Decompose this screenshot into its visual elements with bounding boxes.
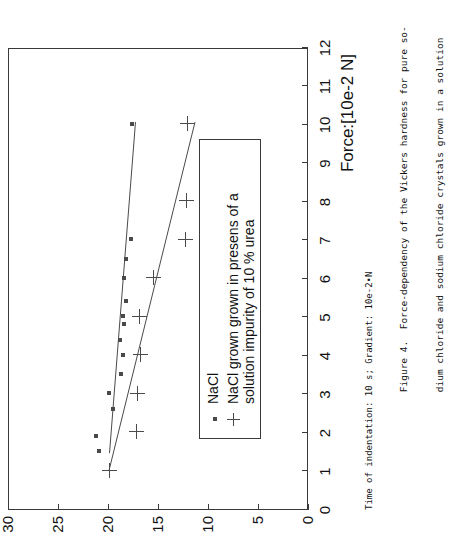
x-tick-label: 11 [316, 72, 333, 102]
legend-label-urea-line1: NaCl grown grown in presens of a [225, 193, 241, 404]
data-point-dot [124, 257, 128, 261]
legend-label-nacl-line1: NaCl [205, 373, 221, 404]
x-tick-label: 7 [316, 226, 333, 256]
y-tick [208, 504, 209, 510]
x-tick-label: 4 [316, 341, 333, 371]
legend-label-nacl-urea: NaCl grown grown in presens of a solutio… [225, 193, 257, 404]
data-point-dot [107, 392, 111, 396]
legend-entry-nacl-urea: NaCl grown grown in presens of a solutio… [225, 148, 257, 430]
legend-label-nacl: NaCl [205, 373, 221, 404]
figure-caption: Figure 4. Force-dependency of the Vicker… [386, 26, 450, 438]
x-tick-label: 2 [316, 418, 333, 448]
y-tick-label: 25 [49, 516, 66, 550]
x-axis-title: Force:[10e-2 N] [338, 48, 358, 510]
x-tick-label: 6 [316, 264, 333, 294]
x-tick-label: 0 [316, 495, 333, 525]
data-point-plus [129, 425, 144, 440]
y-tick-label: 0 [299, 516, 316, 550]
data-point-plus [133, 348, 148, 363]
x-tick [302, 471, 308, 472]
data-point-plus [146, 271, 161, 286]
data-point-plus [132, 309, 147, 324]
y-tick [108, 504, 109, 510]
y-tick-label: 20 [99, 516, 116, 550]
x-tick-label: 8 [316, 187, 333, 217]
data-point-dot [94, 434, 98, 438]
legend-entry-nacl: NaCl [205, 148, 222, 430]
data-point-plus [180, 117, 195, 132]
x-tick [302, 355, 308, 356]
data-point-plus [179, 194, 194, 209]
data-point-plus [178, 232, 193, 247]
data-point-dot [121, 315, 125, 319]
x-tick-label: 9 [316, 149, 333, 179]
y-tick [258, 504, 259, 510]
x-tick [302, 432, 308, 433]
caption-line-2: dium chloride and sodium chloride crysta… [434, 38, 445, 393]
x-tick [302, 86, 308, 87]
data-point-dot [118, 338, 122, 342]
y-tick-label: 15 [149, 516, 166, 550]
caption-line-1: Figure 4. Force-dependency of the Vicker… [398, 26, 409, 392]
x-tick [302, 240, 308, 241]
data-point-dot [122, 276, 126, 280]
x-tick [302, 317, 308, 318]
data-point-dot [97, 449, 101, 453]
x-tick [302, 47, 308, 48]
data-point-dot [124, 299, 128, 303]
x-tick [302, 163, 308, 164]
y-tick-label: 5 [249, 516, 266, 550]
y-tick [158, 504, 159, 510]
y-tick-label: 10 [199, 516, 216, 550]
data-point-dot [122, 322, 126, 326]
y-tick-label: 30 [0, 516, 16, 550]
trend-line [110, 122, 136, 453]
plus-marker [225, 404, 242, 430]
data-point-plus [102, 463, 117, 478]
data-point-dot [111, 407, 115, 411]
y-tick [58, 504, 59, 510]
data-point-dot [130, 122, 134, 126]
dot-marker [205, 404, 222, 430]
x-tick [302, 394, 308, 395]
plot-area: NaCl NaCl grown grown in presens of a so… [8, 48, 308, 510]
data-point-dot [119, 372, 123, 376]
x-tick [302, 124, 308, 125]
y-tick [8, 504, 9, 510]
x-tick-label: 12 [316, 33, 333, 63]
y-tick [308, 504, 309, 510]
legend-label-urea-line2: solution impurity of 10 % urea [241, 193, 257, 404]
data-point-dot [121, 353, 125, 357]
data-point-dot [129, 238, 133, 242]
figure-footnote: Time of indentation: 10 s; Gradient: 10e… [364, 272, 374, 510]
data-point-plus [130, 386, 145, 401]
legend-box: NaCl NaCl grown grown in presens of a so… [199, 139, 261, 439]
x-tick-label: 1 [316, 457, 333, 487]
x-tick-label: 10 [316, 110, 333, 140]
x-tick-label: 5 [316, 303, 333, 333]
x-tick [302, 201, 308, 202]
x-tick-label: 3 [316, 380, 333, 410]
x-tick [302, 278, 308, 279]
